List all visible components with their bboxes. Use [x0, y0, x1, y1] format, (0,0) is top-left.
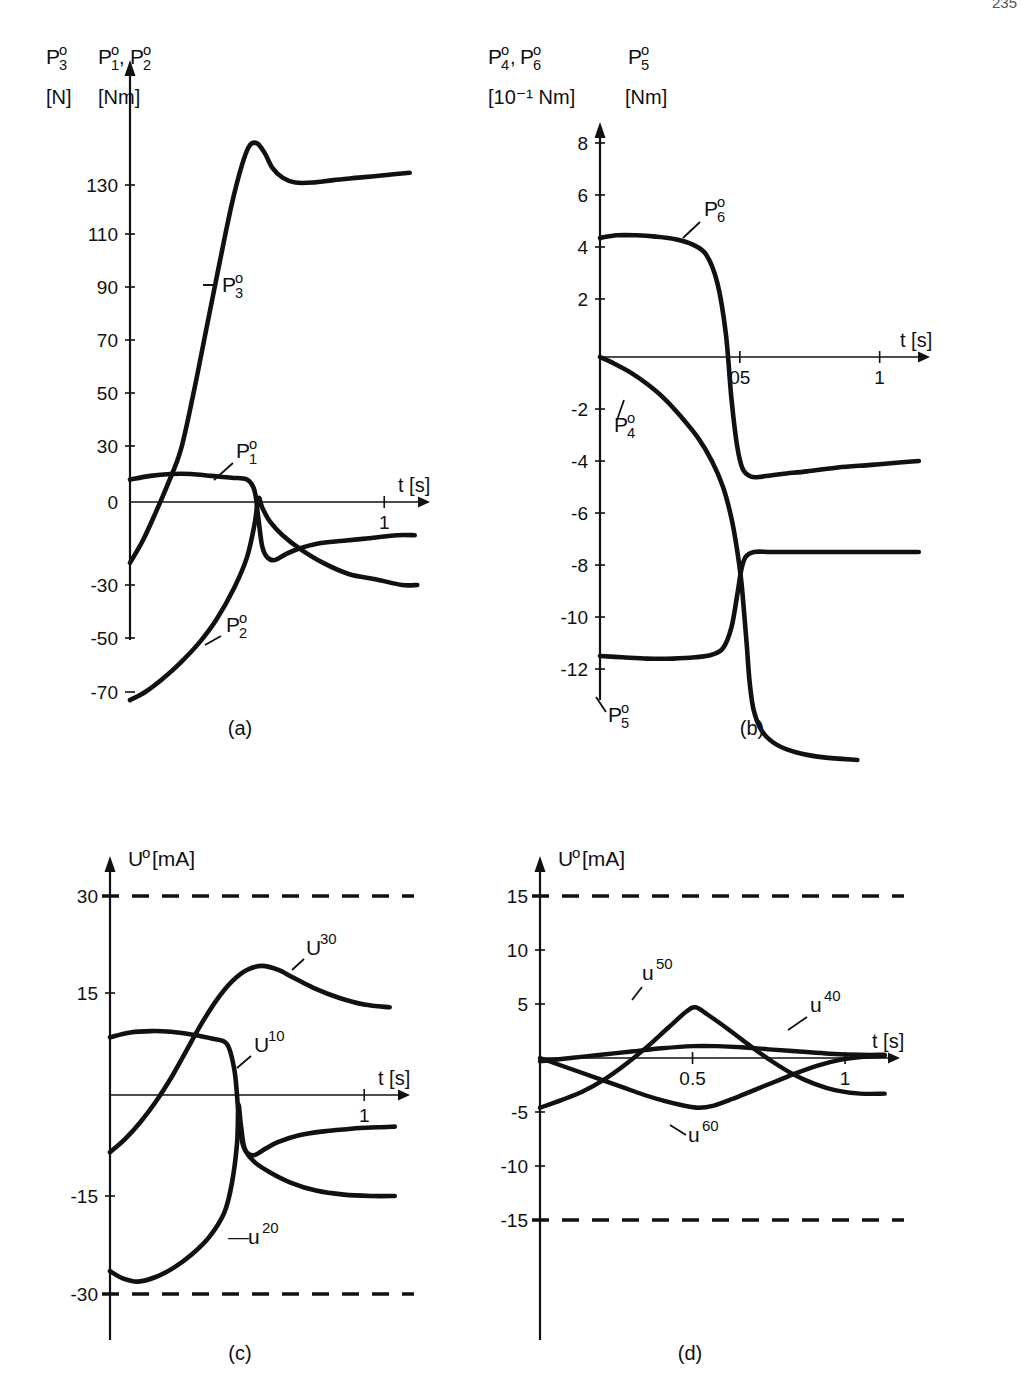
svg-text:3: 3 [235, 285, 243, 301]
label-leader [670, 1125, 686, 1135]
curve-label-u30: U30 [306, 930, 337, 959]
svg-text:50: 50 [656, 955, 673, 972]
y-axis-unit-right: [Nm] [625, 86, 667, 108]
y-tick-label: -15 [501, 1210, 528, 1231]
curve [540, 1046, 885, 1061]
svg-text:4: 4 [501, 57, 509, 73]
y-axis-unit-left: [10⁻¹ Nm] [488, 86, 575, 108]
svg-text:U: U [306, 936, 321, 959]
svg-text:2: 2 [239, 625, 247, 641]
y-tick-label: -15 [71, 1186, 98, 1207]
svg-text:30: 30 [320, 930, 337, 947]
svg-text:—: — [228, 1225, 249, 1248]
y-axis-name: Uo[mA] [128, 844, 195, 870]
curve [130, 474, 415, 560]
svg-text:P: P [704, 197, 718, 220]
svg-text:o: o [621, 700, 629, 716]
curve-label-u40: u40 [810, 987, 841, 1016]
x-tick-label: 1 [840, 1068, 851, 1089]
svg-text:P: P [236, 439, 250, 462]
svg-text:P: P [628, 45, 642, 68]
y-tick-label: -12 [561, 659, 588, 680]
y-tick-label: 15 [77, 983, 98, 1004]
svg-text:4: 4 [627, 425, 635, 441]
curve-label-p3: P3o [222, 270, 243, 302]
y-tick-label: 0 [107, 492, 118, 513]
svg-text:o: o [235, 270, 243, 286]
y-axis-name-right-1: P1o [98, 42, 119, 74]
y-axis-unit-left: [N] [46, 86, 72, 108]
svg-text:6: 6 [533, 57, 541, 73]
label-leader [683, 222, 700, 238]
y-tick-label: -6 [571, 503, 588, 524]
label-leader [788, 1017, 807, 1030]
svg-text:o: o [572, 844, 580, 861]
y-tick-label: 30 [97, 436, 118, 457]
svg-text:1: 1 [249, 451, 257, 467]
svg-text:u: u [688, 1123, 700, 1146]
svg-text:u: u [810, 993, 822, 1016]
y-axis-name-left-1: P4o [488, 42, 509, 74]
x-axis-name: t [s] [398, 474, 430, 496]
y-tick-label: 110 [88, 224, 118, 245]
x-axis-arrow [398, 1090, 410, 1101]
svg-text:o: o [641, 42, 649, 58]
y-tick-label: -10 [561, 607, 588, 628]
x-axis-name: t [s] [378, 1067, 410, 1089]
subplot-caption: (a) [228, 717, 252, 739]
x-tick-label: 0.5 [679, 1068, 705, 1089]
curve [600, 552, 919, 659]
curve [130, 143, 410, 563]
y-axis-name-left: P3o [46, 42, 67, 74]
svg-text:5: 5 [621, 715, 629, 731]
x-tick-label: 1 [874, 367, 885, 388]
curve-label-p4: P4o [614, 410, 635, 442]
svg-text:20: 20 [262, 1219, 279, 1236]
svg-text:[mA]: [mA] [582, 847, 625, 870]
panel-a: 130110907050300-30-50-701P3o[N]P1o,P2o[N… [46, 42, 430, 739]
x-axis-name: t [s] [872, 1030, 904, 1052]
curve [130, 498, 417, 700]
svg-text:P: P [608, 703, 622, 726]
y-tick-label: 5 [517, 994, 528, 1015]
svg-text:6: 6 [717, 209, 725, 225]
curve-label-u50: u50 [642, 955, 673, 984]
svg-text:o: o [142, 844, 150, 861]
svg-text:o: o [143, 42, 151, 58]
svg-text:U: U [128, 847, 143, 870]
subplot-caption: (b) [740, 717, 764, 739]
subplot-b: 8642-2-4-6-8-10-12051P4o,P6o[10⁻¹ Nm]P5o… [470, 0, 1035, 760]
label-leader [632, 987, 642, 1000]
y-tick-label: 10 [507, 940, 528, 961]
svg-text:P: P [46, 45, 60, 68]
y-tick-label: -10 [501, 1156, 528, 1177]
subplot-a: 130110907050300-30-50-701P3o[N]P1o,P2o[N… [0, 0, 500, 760]
panel-c: 3015-15-301Uo[mA]t [s]U30U10—u20(c) [71, 844, 414, 1364]
figure-page: 235 130110907050300-30-50-701P3o[N]P1o,P… [0, 0, 1035, 1378]
svg-text:[mA]: [mA] [152, 847, 195, 870]
x-tick-label: 1 [359, 1105, 370, 1126]
svg-text:P: P [614, 413, 628, 436]
curve [540, 1056, 885, 1108]
curve-label-u10: U10 [254, 1027, 285, 1056]
svg-text:U: U [558, 847, 573, 870]
y-axis-arrow [105, 856, 116, 872]
y-tick-label: 70 [97, 330, 118, 351]
y-tick-label: -30 [71, 1284, 98, 1305]
y-axis-name-right-2: P2o [130, 42, 151, 74]
y-tick-label: 50 [97, 383, 118, 404]
svg-text:o: o [111, 42, 119, 58]
svg-text:P: P [520, 45, 534, 68]
svg-text:P: P [222, 273, 236, 296]
y-axis-name: Uo[mA] [558, 844, 625, 870]
subplot-caption: (c) [228, 1342, 251, 1364]
svg-text:o: o [239, 610, 247, 626]
curve-label-p1: P1o [236, 436, 257, 468]
panel-b: 8642-2-4-6-8-10-12051P4o,P6o[10⁻¹ Nm]P5o… [488, 42, 932, 760]
x-axis-arrow [918, 352, 930, 363]
curve [600, 357, 857, 760]
svg-text:P: P [130, 45, 144, 68]
y-tick-label: 2 [577, 289, 588, 310]
y-axis-name-left-2: P6o [520, 42, 541, 74]
y-axis-unit-right: [Nm] [98, 86, 140, 108]
